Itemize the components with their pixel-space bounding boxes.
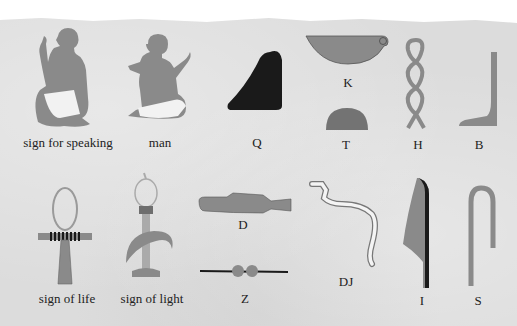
glyph-label-sign-of-light: sign of light xyxy=(121,291,184,307)
ankh-icon xyxy=(36,187,94,285)
glyph-label-h: H xyxy=(413,137,422,153)
glyph-label-sign-of-life: sign of life xyxy=(39,291,95,307)
seated-man-icon xyxy=(118,28,198,128)
folded-cloth-icon xyxy=(465,186,497,290)
foot-icon xyxy=(457,50,501,130)
glyph-label-t: T xyxy=(342,137,350,153)
reed-leaf-icon xyxy=(401,176,431,288)
glyph-label-z: Z xyxy=(241,291,249,307)
glyph-label-dj: DJ xyxy=(339,274,353,290)
cobra-icon xyxy=(310,182,378,264)
hill-slope-icon xyxy=(226,48,286,112)
glyph-label-man: man xyxy=(149,135,171,151)
glyph-label-s: S xyxy=(474,293,481,309)
seated-man-speaking-icon xyxy=(30,26,100,132)
door-bolt-icon xyxy=(200,262,288,278)
glyph-label-b: B xyxy=(475,137,484,153)
glyph-label-k: K xyxy=(343,75,352,91)
bread-loaf-icon xyxy=(324,106,370,132)
glyph-label-sign-for-speaking: sign for speaking xyxy=(23,135,113,151)
light-standard-icon xyxy=(122,173,174,285)
glyph-label-i: I xyxy=(420,293,424,309)
twisted-wick-icon xyxy=(404,36,428,132)
glyph-label-q: Q xyxy=(252,135,261,151)
glyph-label-d: D xyxy=(238,217,247,233)
basket-icon xyxy=(306,34,390,66)
forearm-icon xyxy=(197,193,293,213)
